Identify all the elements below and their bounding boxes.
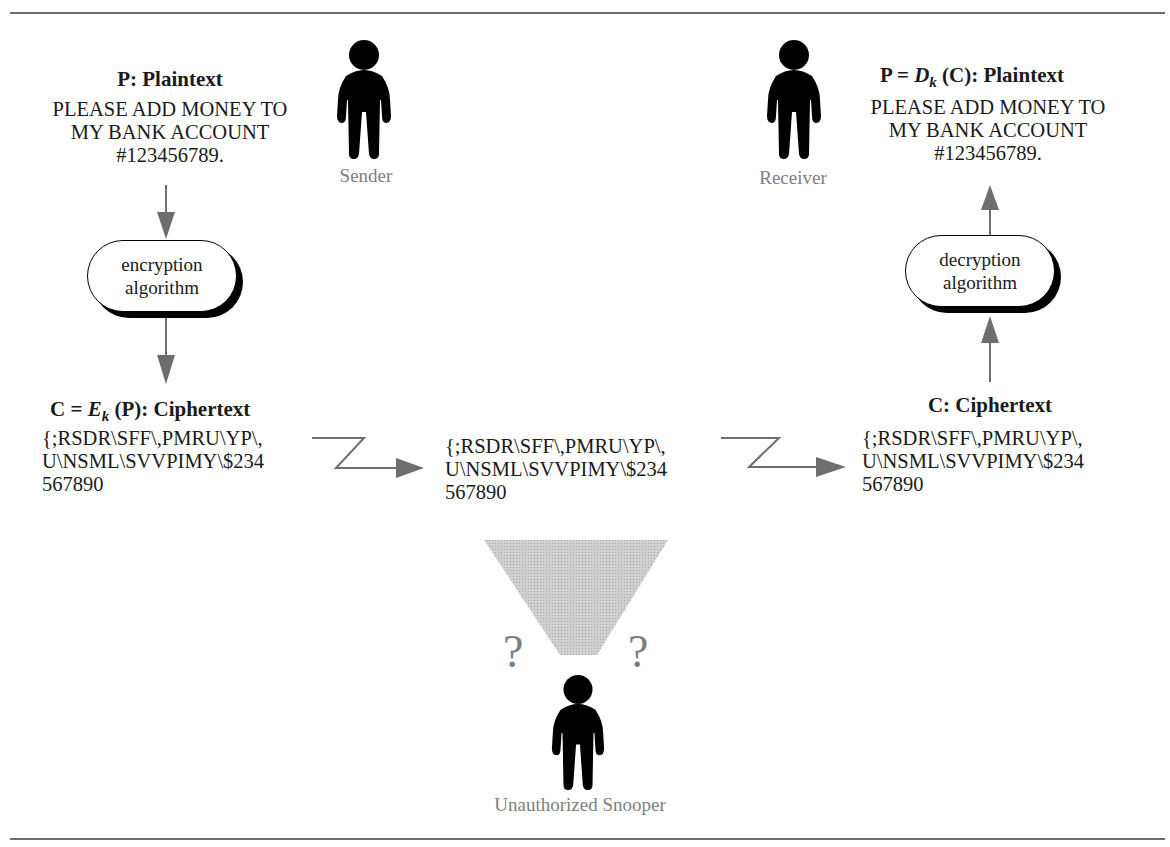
encryption-algorithm-node: encryption algorithm (87, 240, 237, 312)
sender-plaintext-line: PLEASE ADD MONEY TO (25, 98, 315, 121)
heading-function: D (914, 63, 929, 87)
ciphertext-line: 567890 (862, 473, 1084, 496)
transit-ciphertext-message: {;RSDR\SFF\,PMRU\YP\, U\NSML\SVVPIMY\$23… (445, 435, 667, 504)
snooper-label: Unauthorized Snooper (460, 794, 700, 816)
receiver-person-icon (764, 38, 824, 160)
bottom-rule (10, 838, 1165, 840)
ciphertext-line: {;RSDR\SFF\,PMRU\YP\, (862, 427, 1084, 450)
receiver-ciphertext-message: {;RSDR\SFF\,PMRU\YP\, U\NSML\SVVPIMY\$23… (862, 427, 1084, 496)
encryption-label-line2: algorithm (125, 276, 199, 299)
encryption-label-line1: encryption (121, 253, 202, 276)
decryption-label-line1: decryption (939, 248, 1020, 271)
arrow-ciphertext-to-decryption (981, 316, 999, 382)
receiver-label: Receiver (748, 167, 838, 189)
heading-suffix: (P): Ciphertext (109, 397, 250, 421)
sender-ciphertext-heading: C = Ek (P): Ciphertext (50, 397, 250, 425)
ciphertext-line: U\NSML\SVVPIMY\$234 (862, 450, 1084, 473)
sender-ciphertext-message: {;RSDR\SFF\,PMRU\YP\, U\NSML\SVVPIMY\$23… (42, 427, 264, 496)
transmission-arrow-2 (721, 438, 846, 477)
sender-person-icon (334, 38, 394, 160)
receiver-plaintext-line: #123456789. (843, 142, 1133, 165)
transmission-arrow-1 (312, 438, 424, 478)
receiver-plaintext-message: PLEASE ADD MONEY TO MY BANK ACCOUNT #123… (843, 96, 1133, 165)
heading-function: E (88, 397, 102, 421)
arrow-decryption-to-plaintext (981, 185, 999, 235)
decryption-label-line2: algorithm (943, 271, 1017, 294)
receiver-ciphertext-heading: C: Ciphertext (890, 393, 1090, 418)
ciphertext-line: {;RSDR\SFF\,PMRU\YP\, (445, 435, 667, 458)
heading-prefix: P = (880, 63, 914, 87)
ciphertext-line: U\NSML\SVVPIMY\$234 (42, 450, 264, 473)
decryption-algorithm-node: decryption algorithm (905, 235, 1055, 307)
arrow-encryption-to-ciphertext (157, 318, 175, 384)
sender-plaintext-line: #123456789. (25, 144, 315, 167)
receiver-plaintext-line: PLEASE ADD MONEY TO (843, 96, 1133, 119)
heading-suffix: (C): Plaintext (937, 63, 1064, 87)
question-mark-right: ? (628, 625, 648, 678)
sender-plaintext-line: MY BANK ACCOUNT (25, 121, 315, 144)
ciphertext-line: {;RSDR\SFF\,PMRU\YP\, (42, 427, 264, 450)
ciphertext-line: U\NSML\SVVPIMY\$234 (445, 458, 667, 481)
sender-plaintext-message: PLEASE ADD MONEY TO MY BANK ACCOUNT #123… (25, 98, 315, 167)
heading-prefix: C = (50, 397, 88, 421)
encryption-node-face: encryption algorithm (87, 240, 237, 312)
ciphertext-line: 567890 (42, 473, 264, 496)
receiver-plaintext-line: MY BANK ACCOUNT (843, 119, 1133, 142)
sender-label: Sender (326, 165, 406, 187)
sender-plaintext-heading: P: Plaintext (70, 67, 270, 92)
heading-subscript: k (929, 74, 937, 90)
question-mark-left: ? (503, 625, 523, 678)
arrow-plaintext-to-encryption (157, 185, 175, 239)
receiver-plaintext-heading: P = Dk (C): Plaintext (880, 63, 1064, 91)
decryption-node-face: decryption algorithm (905, 235, 1055, 307)
ciphertext-line: 567890 (445, 481, 667, 504)
snooper-person-icon (548, 673, 608, 791)
